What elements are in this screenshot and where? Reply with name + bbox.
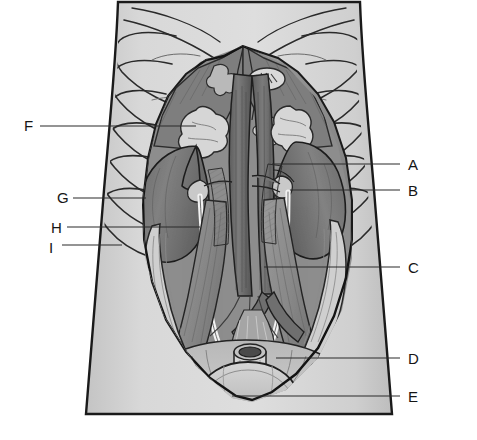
label-h: H <box>51 220 62 235</box>
anatomy-illustration <box>0 0 477 440</box>
label-a: A <box>408 157 418 172</box>
label-c: C <box>408 260 419 275</box>
label-i: I <box>49 240 53 255</box>
label-f: F <box>24 118 33 133</box>
label-e: E <box>408 389 418 404</box>
figure-canvas: ABCDEFGHI <box>0 0 477 440</box>
label-d: D <box>408 351 419 366</box>
label-b: B <box>408 183 418 198</box>
label-g: G <box>57 190 69 205</box>
